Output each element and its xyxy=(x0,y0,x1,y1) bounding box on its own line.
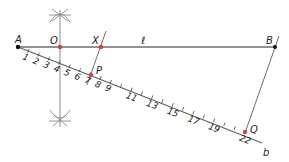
tick-label: 15 xyxy=(166,106,181,120)
label-x: X xyxy=(91,35,100,46)
construction-diagram: A O X B P Q ℓ b 123456789111315171922 xyxy=(0,0,289,162)
tick-label: 13 xyxy=(145,98,160,112)
tick-label: 6 xyxy=(73,71,82,82)
tick-mark xyxy=(141,91,142,95)
tick-label: 5 xyxy=(63,67,72,78)
tick-mark xyxy=(120,84,121,88)
ray-b xyxy=(18,47,262,143)
label-line-l: ℓ xyxy=(141,35,145,46)
point-a xyxy=(16,45,20,49)
tick-label: 9 xyxy=(104,83,113,94)
tick-label: 1 xyxy=(21,52,30,63)
point-b xyxy=(273,45,277,49)
tick-mark xyxy=(234,126,235,130)
tick-mark xyxy=(203,115,204,119)
tick-label: 11 xyxy=(124,90,138,103)
label-q: Q xyxy=(250,124,258,135)
label-o: O xyxy=(50,35,58,46)
tick-labels: 123456789111315171922 xyxy=(21,52,252,147)
label-a: A xyxy=(14,34,22,45)
tick-mark xyxy=(182,107,183,111)
tick-label: 19 xyxy=(207,121,222,135)
label-ray-b: b xyxy=(263,147,269,158)
tick-label: 17 xyxy=(186,113,201,127)
label-b: B xyxy=(266,35,273,46)
tick-label: 7 xyxy=(83,75,92,86)
label-p: P xyxy=(96,65,103,76)
point-x xyxy=(99,45,103,49)
tick-label: 8 xyxy=(94,79,103,90)
tick-label: 3 xyxy=(42,59,51,70)
point-o xyxy=(58,45,62,49)
tick-mark xyxy=(224,122,225,126)
tick-mark xyxy=(162,99,163,103)
segment-qb xyxy=(245,36,279,133)
tick-label: 2 xyxy=(32,56,41,67)
